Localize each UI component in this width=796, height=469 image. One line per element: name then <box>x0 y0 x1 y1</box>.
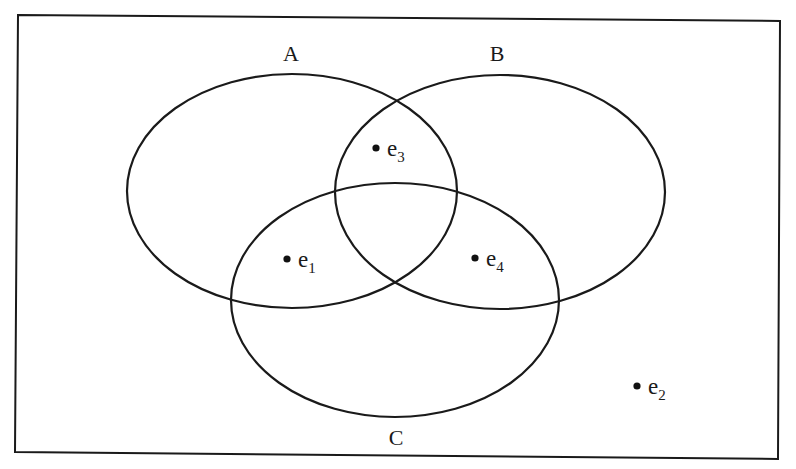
set-c-label: C <box>389 425 404 450</box>
set-a-ellipse <box>127 74 457 308</box>
element-label: e1 <box>298 247 316 276</box>
element-label: e4 <box>486 246 504 275</box>
element-label: e3 <box>387 136 405 165</box>
element-e3: e3 <box>372 136 404 165</box>
element-e1: e1 <box>283 247 315 276</box>
element-label: e2 <box>648 374 666 403</box>
point-dot-icon <box>372 144 379 151</box>
element-e2: e2 <box>633 374 665 403</box>
point-dot-icon <box>633 382 640 389</box>
element-e4: e4 <box>471 246 504 275</box>
point-dot-icon <box>283 255 290 262</box>
point-dot-icon <box>471 254 478 261</box>
venn-diagram: ABC e1e2e3e4 <box>0 0 796 469</box>
set-b-label: B <box>490 41 505 66</box>
set-a-label: A <box>283 41 299 66</box>
set-c-ellipse <box>231 183 559 417</box>
